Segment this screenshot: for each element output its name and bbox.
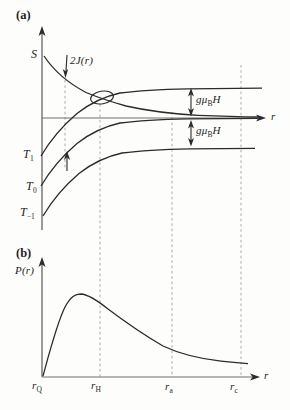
- triplet-zero-label: T0: [26, 180, 37, 196]
- probability-distribution-curve: [43, 294, 248, 376]
- zeeman-lower-arrow: [188, 120, 194, 147]
- level-crossing-circle-icon: [90, 89, 115, 105]
- tick-ra: ra: [165, 380, 173, 396]
- tick-rH: rH: [91, 379, 101, 395]
- zeeman-upper-label: gμBH: [196, 93, 221, 109]
- tick-rc: rc: [230, 380, 238, 396]
- triplet-down-curve: [43, 148, 255, 216]
- panel-b-y-axis-label: P(r): [15, 264, 34, 277]
- panel-b-plot: [39, 257, 261, 381]
- exchange-splitting-arrows: [63, 55, 70, 171]
- figure-canvas: [0, 0, 290, 410]
- panel-a-plot: [39, 26, 267, 377]
- figure-energy-levels-vs-distance: (a) S 2J(r) T1 T0 T−1 gμBH gμBH r (b) P(…: [0, 0, 290, 410]
- panel-a-x-axis-label: r: [271, 110, 275, 123]
- zeeman-lower-label: gμBH: [196, 124, 221, 140]
- zeeman-upper-arrow: [188, 88, 194, 117]
- tick-rQ: rQ: [32, 379, 42, 395]
- triplet-down-label: T−1: [20, 206, 35, 222]
- panel-a-tag: (a): [16, 8, 31, 22]
- exchange-splitting-label: 2J(r): [70, 54, 93, 67]
- singlet-label: S: [31, 48, 37, 62]
- panel-b-x-axis-label: r: [264, 369, 268, 382]
- down-arrow-shaft: [66, 55, 67, 71]
- panel-b-tag: (b): [16, 246, 31, 260]
- triplet-up-label: T1: [23, 148, 34, 164]
- triplet-zero-curve: [41, 118, 258, 186]
